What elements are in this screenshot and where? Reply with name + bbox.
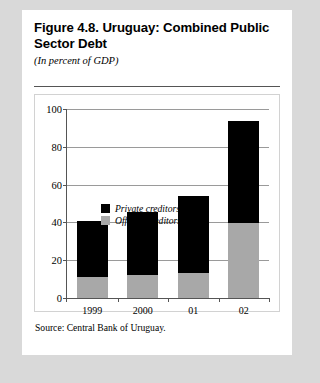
bar-group[interactable] [77,221,108,298]
x-axis-tick-label: 02 [239,305,249,316]
figure-subtitle: (In percent of GDP) [34,54,280,67]
x-axis-tick-mark [168,298,169,302]
x-axis-tick-mark [219,298,220,302]
bar-group[interactable] [178,196,209,298]
legend-swatch-private-icon [101,204,110,213]
legend-label-official: Official creditors [115,215,181,226]
title-block: Figure 4.8. Uruguay: Combined Public Sec… [34,20,280,67]
bar-segment-official[interactable] [127,275,158,298]
figure-card: Figure 4.8. Uruguay: Combined Public Sec… [22,10,292,355]
legend-item-private: Private creditors [101,203,181,214]
bar-segment-official[interactable] [77,277,108,298]
y-axis-tick-mark [63,109,67,110]
y-axis-tick-mark [63,222,67,223]
bar-segment-private[interactable] [77,221,108,277]
bar-segment-private[interactable] [178,196,209,273]
bar-segment-official[interactable] [178,273,209,299]
x-axis-tick-label: 2000 [133,305,153,316]
bar-segment-private[interactable] [228,121,259,223]
gridline [67,109,269,110]
y-axis-tick-label: 100 [46,104,62,115]
y-axis-tick-label: 80 [52,141,63,152]
y-axis-tick-label: 0 [57,293,62,304]
legend-item-official: Official creditors [101,215,181,226]
y-axis-tick-mark [63,185,67,186]
x-axis-end-tick [269,298,270,302]
y-axis-tick-label: 40 [52,217,63,228]
y-axis-line [66,109,67,298]
x-axis-tick-label: 1999 [82,305,102,316]
legend-swatch-official-icon [101,216,110,225]
x-axis-tick-mark [118,298,119,302]
title-divider [34,86,280,87]
x-axis-tick-label: 01 [188,305,198,316]
y-axis-tick-label: 60 [52,179,63,190]
figure-title: Figure 4.8. Uruguay: Combined Public Sec… [34,20,280,51]
y-axis-tick-label: 20 [52,255,63,266]
y-axis-tick-mark [63,147,67,148]
bar-group[interactable] [228,121,259,298]
x-axis-end-tick [66,298,67,302]
y-axis-tick-mark [63,260,67,261]
bar-segment-official[interactable] [228,223,259,298]
source-note: Source: Central Bank of Uruguay. [35,322,166,333]
chart-legend: Private creditors Official creditors [101,203,181,227]
legend-label-private: Private creditors [115,203,180,214]
chart-plot-frame: 020406080100 199920000102 Private credit… [34,94,280,312]
